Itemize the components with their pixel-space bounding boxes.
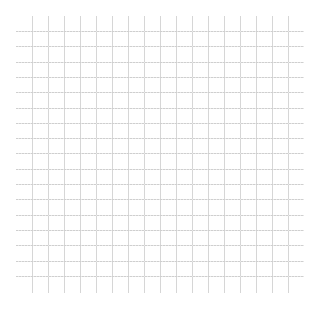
grid-horizontal-line xyxy=(16,230,304,231)
grid-vertical-line xyxy=(64,16,65,293)
grid-horizontal-line xyxy=(16,62,304,63)
grid-horizontal-line xyxy=(16,276,304,277)
grid-vertical-line xyxy=(192,16,193,293)
grid-horizontal-line xyxy=(16,31,304,32)
grid-horizontal-line xyxy=(16,169,304,170)
grid-vertical-line xyxy=(288,16,289,293)
grid-horizontal-line xyxy=(16,123,304,124)
grid-horizontal-line xyxy=(16,108,304,109)
grid-horizontal-line xyxy=(16,46,304,47)
grid-canvas xyxy=(0,0,320,309)
grid-horizontal-line xyxy=(16,184,304,185)
grid-vertical-line xyxy=(144,16,145,293)
grid-vertical-line xyxy=(80,16,81,293)
grid-horizontal-line xyxy=(16,138,304,139)
grid-vertical-line xyxy=(48,16,49,293)
grid-vertical-line xyxy=(160,16,161,293)
grid-horizontal-line xyxy=(16,153,304,154)
grid-vertical-line xyxy=(208,16,209,293)
grid-vertical-line xyxy=(176,16,177,293)
grid-horizontal-line xyxy=(16,92,304,93)
grid-vertical-line xyxy=(128,16,129,293)
grid-vertical-line xyxy=(272,16,273,293)
grid-vertical-line xyxy=(96,16,97,293)
grid-horizontal-line xyxy=(16,77,304,78)
grid-vertical-line xyxy=(256,16,257,293)
grid-horizontal-line xyxy=(16,215,304,216)
grid-horizontal-line xyxy=(16,261,304,262)
grid-horizontal-line xyxy=(16,245,304,246)
grid-vertical-line xyxy=(240,16,241,293)
grid-vertical-line xyxy=(112,16,113,293)
grid-vertical-line xyxy=(224,16,225,293)
grid-vertical-line xyxy=(32,16,33,293)
grid-horizontal-line xyxy=(16,199,304,200)
